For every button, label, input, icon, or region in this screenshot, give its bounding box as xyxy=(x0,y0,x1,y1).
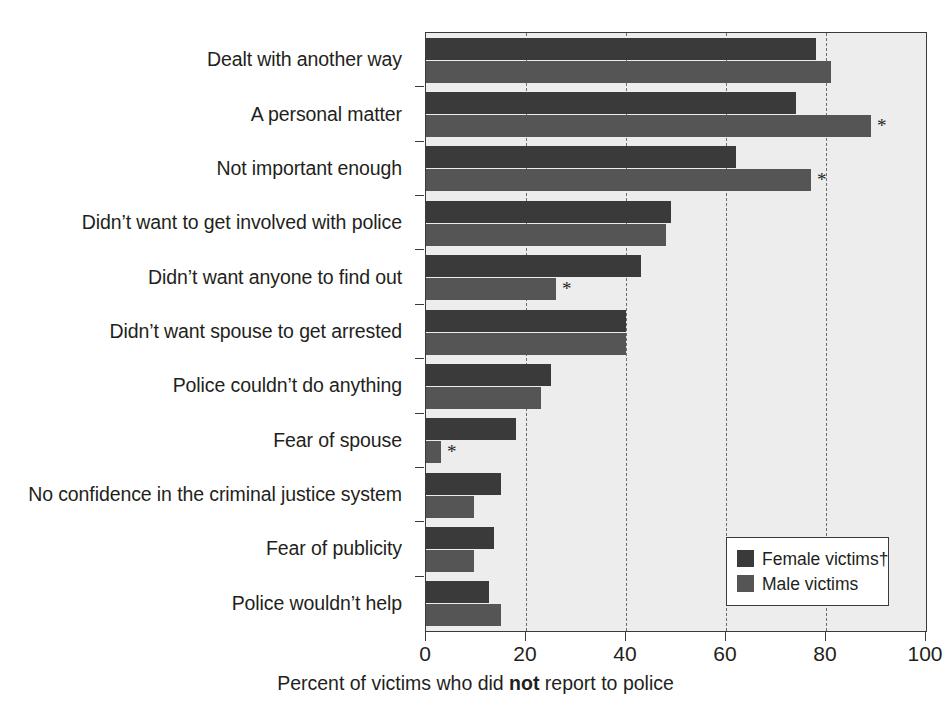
x-tick-80 xyxy=(825,632,826,641)
x-axis-title-emphasis: not xyxy=(509,672,539,694)
significance-marker-male-2: * xyxy=(817,170,827,189)
x-axis-title-prefix: Percent of victims who did xyxy=(277,672,509,694)
x-tick-label-60: 60 xyxy=(685,642,765,666)
x-tick-label-80: 80 xyxy=(785,642,865,666)
category-tick-3 xyxy=(415,195,424,196)
bar-female-0 xyxy=(426,38,816,60)
category-label-3: Didn’t want to get involved with police xyxy=(0,211,402,233)
bar-female-4 xyxy=(426,255,641,277)
legend-swatch-female-icon xyxy=(737,550,754,567)
x-tick-label-100: 100 xyxy=(885,642,951,666)
category-label-8: No confidence in the criminal justice sy… xyxy=(0,483,402,505)
significance-marker-male-1: * xyxy=(877,116,887,135)
bar-female-5 xyxy=(426,310,626,332)
category-tick-4 xyxy=(415,249,424,250)
chart-legend: Female victims† Male victims xyxy=(726,537,889,606)
x-tick-100 xyxy=(925,632,926,641)
bar-male-2 xyxy=(426,169,811,191)
x-tick-label-40: 40 xyxy=(585,642,665,666)
bar-female-9 xyxy=(426,527,494,549)
x-tick-label-0: 0 xyxy=(385,642,465,666)
legend-label-male: Male victims xyxy=(762,574,858,594)
bar-male-0 xyxy=(426,61,831,83)
bar-male-9 xyxy=(426,550,474,572)
x-tick-40 xyxy=(625,632,626,641)
category-tick-7 xyxy=(415,413,424,414)
bar-male-8 xyxy=(426,496,474,518)
category-tick-10 xyxy=(415,576,424,577)
significance-marker-male-7: * xyxy=(447,442,457,461)
bar-female-6 xyxy=(426,364,551,386)
category-tick-2 xyxy=(415,141,424,142)
x-tick-60 xyxy=(725,632,726,641)
category-axis-ticks xyxy=(415,32,425,630)
x-tick-20 xyxy=(525,632,526,641)
bar-female-8 xyxy=(426,473,501,495)
category-label-1: A personal matter xyxy=(0,103,402,125)
x-tick-0 xyxy=(425,632,426,641)
x-axis-title-suffix: report to police xyxy=(539,672,673,694)
category-tick-1 xyxy=(415,86,424,87)
category-label-5: Didn’t want spouse to get arrested xyxy=(0,320,402,342)
bar-male-3 xyxy=(426,224,666,246)
category-label-6: Police couldn’t do anything xyxy=(0,374,402,396)
bar-female-10 xyxy=(426,581,489,603)
bar-male-6 xyxy=(426,387,541,409)
legend-item-female: Female victims† xyxy=(737,546,878,571)
category-label-10: Police wouldn’t help xyxy=(0,592,402,614)
bar-female-1 xyxy=(426,92,796,114)
category-axis-labels: Dealt with another wayA personal matterN… xyxy=(0,32,414,630)
bar-male-10 xyxy=(426,604,501,626)
category-tick-9 xyxy=(415,521,424,522)
bar-female-2 xyxy=(426,146,736,168)
bar-male-1 xyxy=(426,115,871,137)
significance-marker-male-4: * xyxy=(562,279,572,298)
value-axis-tick-labels: 020406080100 xyxy=(385,642,951,670)
category-label-0: Dealt with another way xyxy=(0,48,402,70)
bar-female-3 xyxy=(426,201,671,223)
category-label-4: Didn’t want anyone to find out xyxy=(0,266,402,288)
x-axis-title: Percent of victims who did not report to… xyxy=(0,672,951,695)
category-tick-8 xyxy=(415,467,424,468)
category-label-2: Not important enough xyxy=(0,157,402,179)
bar-male-4 xyxy=(426,278,556,300)
bar-chart-figure: Dealt with another wayA personal matterN… xyxy=(0,0,951,723)
category-tick-5 xyxy=(415,304,424,305)
legend-swatch-male-icon xyxy=(737,575,754,592)
legend-label-female: Female victims† xyxy=(762,549,888,569)
category-label-7: Fear of spouse xyxy=(0,429,402,451)
bar-female-7 xyxy=(426,418,516,440)
bar-male-7 xyxy=(426,441,441,463)
legend-item-male: Male victims xyxy=(737,571,878,596)
value-axis-ticks xyxy=(425,632,925,642)
bar-male-5 xyxy=(426,333,626,355)
x-tick-label-20: 20 xyxy=(485,642,565,666)
category-tick-6 xyxy=(415,358,424,359)
category-label-9: Fear of publicity xyxy=(0,537,402,559)
